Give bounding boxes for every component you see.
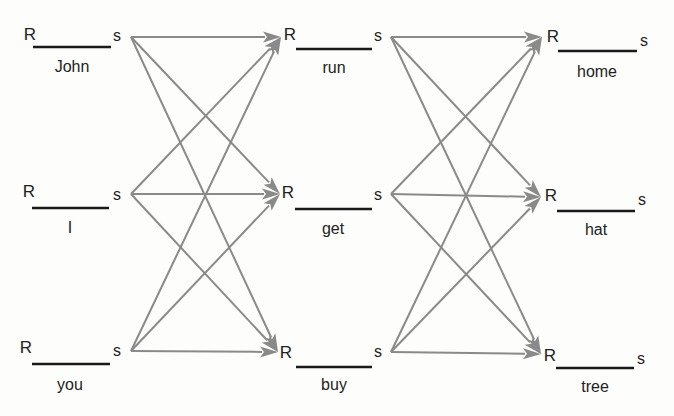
edge-run-to-home — [391, 32, 542, 43]
node-you: Ryous — [20, 338, 121, 393]
edge-layer — [131, 32, 542, 360]
stimulus-label: s — [640, 32, 648, 49]
node-run: Rruns — [284, 25, 382, 76]
word-label: hat — [585, 221, 608, 238]
stimulus-label: s — [374, 186, 382, 203]
word-label: home — [577, 63, 617, 80]
node-i: RIs — [23, 182, 121, 236]
response-label: R — [280, 343, 292, 362]
node-hat: Rhats — [545, 186, 646, 238]
response-label: R — [544, 346, 556, 365]
node-get: Rgets — [282, 183, 382, 237]
sr-chain-diagram: RJohnsRIsRyousRrunsRgetsRbuysRhomesRhats… — [0, 0, 674, 416]
word-label: run — [322, 59, 345, 76]
word-label: I — [68, 219, 72, 236]
stimulus-label: s — [113, 342, 121, 359]
node-home: Rhomes — [547, 27, 648, 80]
node-john: RJohns — [24, 25, 121, 75]
response-label: R — [20, 338, 32, 357]
edge-you-to-buy — [131, 346, 278, 357]
word-label: you — [57, 376, 83, 393]
response-label: R — [547, 27, 559, 46]
stimulus-label: s — [113, 27, 121, 44]
stimulus-label: s — [637, 350, 645, 367]
diagram-canvas: RJohnsRIsRyousRrunsRgetsRbuysRhomesRhats… — [0, 0, 674, 416]
stimulus-label: s — [374, 343, 382, 360]
stimulus-label: s — [113, 186, 121, 203]
response-label: R — [545, 186, 557, 205]
node-tree: Rtrees — [544, 346, 645, 395]
edge-buy-to-tree — [391, 348, 541, 359]
word-label: tree — [581, 378, 609, 395]
word-label: John — [55, 58, 90, 75]
response-label: R — [284, 25, 296, 44]
node-layer: RJohnsRIsRyousRrunsRgetsRbuysRhomesRhats… — [20, 25, 648, 395]
stimulus-label: s — [638, 191, 646, 208]
edge-john-to-run — [131, 32, 281, 43]
node-buy: Rbuys — [280, 343, 382, 393]
response-label: R — [23, 182, 35, 201]
response-label: R — [24, 25, 36, 44]
stimulus-label: s — [374, 27, 382, 44]
response-label: R — [282, 183, 294, 202]
word-label: buy — [321, 376, 347, 393]
word-label: get — [322, 220, 345, 237]
